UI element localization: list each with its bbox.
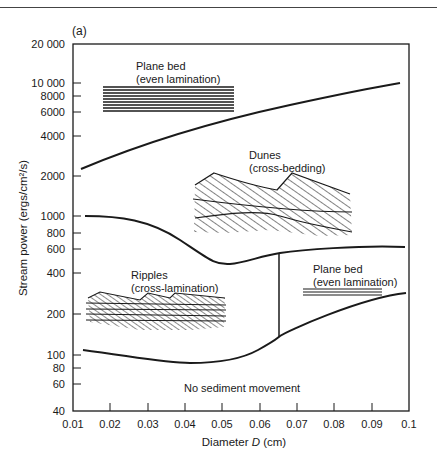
y-tick-labels: 20 000 10 000 8000 6000 4000 2000 1000 8… xyxy=(31,38,65,417)
svg-text:0.05: 0.05 xyxy=(211,418,232,430)
svg-text:0.09: 0.09 xyxy=(361,418,382,430)
svg-text:20 000: 20 000 xyxy=(31,38,65,50)
svg-text:0.01: 0.01 xyxy=(62,418,83,430)
svg-text:0.07: 0.07 xyxy=(286,418,307,430)
svg-text:400: 400 xyxy=(47,267,65,279)
svg-text:200: 200 xyxy=(47,308,65,320)
svg-text:(even lamination): (even lamination) xyxy=(313,276,397,288)
svg-text:0.03: 0.03 xyxy=(137,418,158,430)
svg-text:2000: 2000 xyxy=(41,170,65,182)
svg-text:Ripples: Ripples xyxy=(131,269,168,281)
y-axis xyxy=(73,83,81,384)
svg-text:100: 100 xyxy=(47,349,65,361)
svg-text:1000: 1000 xyxy=(41,210,65,222)
annotation-lower-plane-bed: Plane bed (even lamination) xyxy=(313,263,397,288)
annotation-no-sediment-movement: No sediment movement xyxy=(184,382,300,394)
svg-text:0.06: 0.06 xyxy=(249,418,270,430)
svg-text:8000: 8000 xyxy=(41,90,65,102)
x-tick-labels: 0.01 0.02 0.03 0.04 0.05 0.06 0.07 0.08 … xyxy=(62,418,416,430)
x-axis xyxy=(110,403,372,411)
svg-text:Plane bed: Plane bed xyxy=(313,263,363,275)
lower-plane-bed-lamination xyxy=(303,289,382,295)
svg-text:6000: 6000 xyxy=(41,106,65,118)
annotation-ripples: Ripples (cross-lamination) xyxy=(131,269,218,294)
dunes-cross-bedding xyxy=(193,173,352,236)
svg-text:600: 600 xyxy=(47,243,65,255)
annotation-upper-plane-bed: Plane bed (even lamination) xyxy=(136,60,220,85)
ripples-cross-lamination xyxy=(86,292,226,330)
svg-text:0.1: 0.1 xyxy=(401,418,416,430)
svg-text:40: 40 xyxy=(53,405,65,417)
svg-text:Plane bed: Plane bed xyxy=(136,60,186,72)
y-axis-title: Stream power (ergs/cm²/s) xyxy=(17,160,29,296)
svg-text:10 000: 10 000 xyxy=(31,77,65,89)
svg-text:(cross-bedding): (cross-bedding) xyxy=(249,162,325,174)
svg-text:0.04: 0.04 xyxy=(174,418,195,430)
x-axis-title: Diameter D (cm) xyxy=(202,436,287,448)
svg-text:800: 800 xyxy=(47,227,65,239)
svg-text:Dunes: Dunes xyxy=(249,149,281,161)
svg-text:0.08: 0.08 xyxy=(323,418,344,430)
chart: 20 000 10 000 8000 6000 4000 2000 1000 8… xyxy=(0,0,437,465)
svg-text:4000: 4000 xyxy=(41,130,65,142)
svg-text:(even lamination): (even lamination) xyxy=(136,73,220,85)
svg-text:(cross-lamination): (cross-lamination) xyxy=(131,282,218,294)
upper-plane-bed-lamination xyxy=(103,87,234,111)
svg-text:0.02: 0.02 xyxy=(99,418,120,430)
svg-text:80: 80 xyxy=(53,362,65,374)
annotation-dunes: Dunes (cross-bedding) xyxy=(249,149,325,174)
svg-text:60: 60 xyxy=(53,378,65,390)
